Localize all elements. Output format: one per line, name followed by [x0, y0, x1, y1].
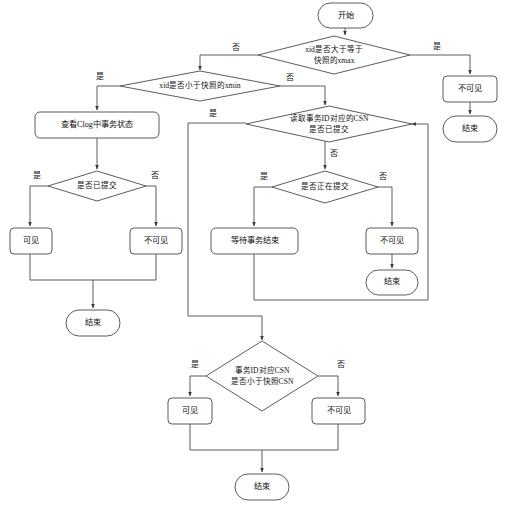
edge-xmax-no	[200, 55, 258, 70]
edge-committed-yes	[30, 186, 48, 226]
node-decision-csn-committed[interactable]: 读取事务ID对应的CSN 是否已提交	[246, 106, 412, 142]
node-visible-bottom-label: 可见	[182, 406, 198, 415]
edge-label-committing-yes: 是	[260, 172, 268, 181]
node-visible-left-label: 可见	[23, 236, 39, 245]
node-check-clog-label: 查看Clog中事务状态	[61, 119, 133, 129]
node-decision-csn-committed-label-line1: 读取事务ID对应的CSN	[290, 113, 369, 123]
node-decision-csn-less[interactable]: 事务ID对应CSN 是否小于快照CSN	[206, 341, 318, 411]
node-end-left-label: 结束	[85, 317, 101, 327]
node-decision-csn-less-label-line2: 是否小于快照CSN	[231, 376, 294, 386]
node-decision-committing[interactable]: 是否正在提交	[272, 171, 378, 203]
node-invisible-bottom-label: 不可见	[327, 406, 351, 415]
edge-committing-yes	[254, 187, 272, 226]
edge-xmax-yes	[410, 55, 470, 74]
node-decision-xmax[interactable]: xid是否大于等于 快照的xmax	[258, 36, 410, 74]
edge-label-xmin-no: 否	[286, 73, 294, 82]
node-decision-xmax-label-line1: xid是否大于等于	[305, 44, 363, 54]
node-decision-csn-committed-label-line2: 是否已提交	[309, 124, 349, 134]
node-invisible-right[interactable]: 不可见	[443, 76, 497, 102]
edge-bottom-merge	[190, 424, 338, 450]
node-start-top-label: 开始	[338, 10, 354, 20]
edge-label-xmax-yes: 是	[433, 42, 441, 51]
node-decision-xmin[interactable]: xid是否小于快照的xmin	[120, 71, 280, 101]
node-visible-bottom[interactable]: 可见	[168, 398, 212, 424]
node-invisible-mid-label: 不可见	[380, 236, 404, 245]
node-invisible-bottom[interactable]: 不可见	[312, 398, 365, 424]
node-invisible-left[interactable]: 不可见	[130, 228, 182, 254]
node-decision-committed-label: 是否已提交	[77, 180, 117, 190]
node-visible-left[interactable]: 可见	[10, 228, 52, 254]
edge-left-merge	[30, 254, 156, 280]
edge-committed-no	[146, 186, 156, 226]
edge-label-csn-less-yes: 是	[191, 360, 199, 369]
node-invisible-right-label: 不可见	[458, 84, 482, 93]
node-start-top[interactable]: 开始	[318, 3, 373, 28]
node-wait-txn[interactable]: 等待事务结束	[211, 228, 298, 254]
edge-label-xmax-no: 否	[232, 43, 240, 52]
node-decision-committing-label: 是否正在提交	[301, 181, 349, 191]
node-decision-xmin-label: xid是否小于快照的xmin	[159, 80, 241, 90]
node-end-bottom[interactable]: 结束	[235, 474, 289, 500]
node-check-clog[interactable]: 查看Clog中事务状态	[35, 112, 159, 138]
edge-csn-less-no	[318, 376, 338, 396]
edge-xmin-no	[280, 86, 325, 105]
node-end-bottom-label: 结束	[254, 481, 270, 491]
node-invisible-mid[interactable]: 不可见	[366, 228, 418, 254]
edge-xmin-yes	[97, 86, 120, 110]
node-end-right-label: 结束	[462, 123, 478, 133]
node-decision-csn-less-label-line1: 事务ID对应CSN	[235, 365, 290, 375]
node-end-mid[interactable]: 结束	[366, 270, 418, 295]
node-end-left[interactable]: 结束	[66, 310, 120, 336]
edge-csn-less-yes	[190, 376, 206, 396]
node-end-right[interactable]: 结束	[443, 116, 497, 142]
edge-label-committing-no: 否	[379, 172, 387, 181]
node-end-mid-label: 结束	[384, 276, 400, 286]
node-decision-xmax-label-line2: 快照的xmax	[314, 55, 355, 65]
edge-label-csn-committed-yes: 是	[209, 109, 217, 118]
node-decision-committed[interactable]: 是否已提交	[48, 171, 146, 201]
edge-label-committed-no: 否	[151, 171, 159, 180]
edge-label-csn-committed-no: 否	[330, 149, 338, 158]
edge-label-csn-less-no: 否	[337, 360, 345, 369]
flowchart-svg: 开始 xid是否大于等于 快照的xmax 否 是 不可见 结束 xid是否小于快…	[0, 0, 505, 507]
edge-committing-no	[378, 187, 392, 226]
edge-label-committed-yes: 是	[33, 171, 41, 180]
edge-label-xmin-yes: 是	[96, 72, 104, 81]
node-wait-txn-label: 等待事务结束	[231, 235, 279, 245]
flowchart-canvas: 开始 xid是否大于等于 快照的xmax 否 是 不可见 结束 xid是否小于快…	[0, 0, 505, 507]
node-invisible-left-label: 不可见	[144, 236, 168, 245]
